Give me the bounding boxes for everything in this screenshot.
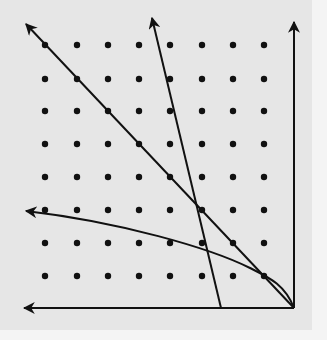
grid-dot [199, 42, 205, 48]
grid-dot [105, 76, 111, 82]
lines [26, 18, 294, 308]
grid-dot [199, 76, 205, 82]
grid-dot [74, 207, 80, 213]
grid-dot [136, 207, 142, 213]
grid-dot [261, 76, 267, 82]
grid-dot [261, 141, 267, 147]
grid-dot [136, 174, 142, 180]
grid-dot [42, 76, 48, 82]
grid-dot [136, 108, 142, 114]
grid-dot [105, 174, 111, 180]
grid-dot [167, 141, 173, 147]
grid-dot [74, 42, 80, 48]
grid-dot [261, 174, 267, 180]
grid-dot [105, 141, 111, 147]
diagram-stage [0, 0, 327, 340]
grid-dot [230, 76, 236, 82]
grid-dot [42, 273, 48, 279]
grid-dot [261, 42, 267, 48]
grid-dot [105, 42, 111, 48]
grid-dot [136, 42, 142, 48]
grid-dot [42, 108, 48, 114]
grid-dot [167, 108, 173, 114]
grid-dot [74, 141, 80, 147]
grid-dot [261, 108, 267, 114]
diagonal-line [26, 24, 294, 308]
grid-dot [136, 76, 142, 82]
grid-dot [199, 273, 205, 279]
grid-dot [199, 174, 205, 180]
grid-dot [42, 174, 48, 180]
grid-dot [261, 207, 267, 213]
grid-dot [42, 141, 48, 147]
grid-dot [230, 108, 236, 114]
grid-dot [74, 240, 80, 246]
curves [26, 211, 294, 308]
grid-dot [261, 240, 267, 246]
grid-dot [136, 240, 142, 246]
grid-dot [105, 207, 111, 213]
curved-arrow [26, 211, 294, 308]
grid-dot [167, 42, 173, 48]
grid-dot [230, 207, 236, 213]
grid-dot [136, 273, 142, 279]
grid-dot [105, 273, 111, 279]
grid-dot [167, 207, 173, 213]
grid-dot [74, 273, 80, 279]
dot-grid-diagram [0, 0, 327, 340]
grid-dot [42, 240, 48, 246]
grid-dot [230, 141, 236, 147]
grid-dot [230, 42, 236, 48]
grid-dot [167, 273, 173, 279]
grid-dot [74, 174, 80, 180]
grid-dot [199, 108, 205, 114]
grid-dot [199, 141, 205, 147]
grid-dot [105, 240, 111, 246]
grid-dot [230, 174, 236, 180]
steep-line [152, 18, 221, 308]
grid-dot [74, 108, 80, 114]
grid-dot [230, 273, 236, 279]
